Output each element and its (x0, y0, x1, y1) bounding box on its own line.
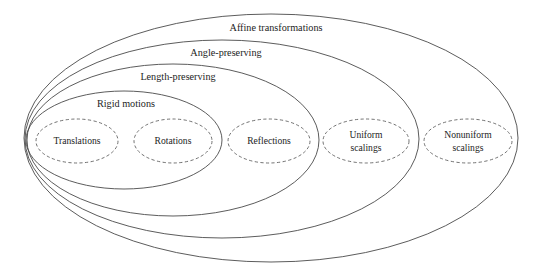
set-label-affine-transformations: Affine transformations (230, 22, 323, 33)
leaf-ellipse-uniform-scalings (323, 119, 409, 163)
set-label-rigid-motions: Rigid motions (97, 98, 155, 109)
transformation-hierarchy-diagram: Affine transformations Angle-preserving … (0, 0, 537, 272)
leaf-label-translations: Translations (53, 135, 100, 146)
leaf-label-nonuniform-scalings-line2: scalings (453, 142, 484, 153)
leaf-label-uniform-scalings-line2: scalings (351, 142, 382, 153)
leaf-label-nonuniform-scalings-line1: Nonuniform (444, 129, 492, 140)
venn-diagram-canvas: Affine transformations Angle-preserving … (0, 0, 537, 272)
leaf-label-uniform-scalings-line1: Uniform (349, 129, 383, 140)
set-label-angle-preserving: Angle-preserving (190, 47, 261, 58)
leaf-ellipse-nonuniform-scalings (424, 119, 512, 163)
set-label-length-preserving: Length-preserving (140, 71, 215, 82)
leaf-label-rotations: Rotations (155, 135, 192, 146)
leaf-label-reflections: Reflections (247, 135, 291, 146)
